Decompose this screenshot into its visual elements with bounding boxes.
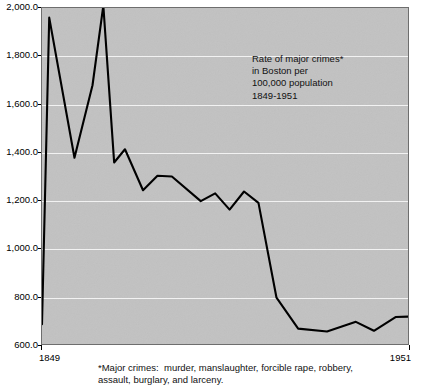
y-axis-tick-mark xyxy=(38,297,41,298)
y-axis-tick-mark xyxy=(38,152,41,153)
series-line xyxy=(42,8,409,345)
y-axis-tick-label: 600.0 xyxy=(0,340,38,350)
y-axis-tick-mark xyxy=(38,200,41,201)
y-axis-tick-label: 800.0 xyxy=(0,292,38,302)
plot-area xyxy=(41,7,409,345)
x-axis-tick-mark xyxy=(409,345,410,350)
y-axis: 600.0800.01,000.01,200.01,400.01,600.01,… xyxy=(0,0,38,388)
y-axis-tick-label: 1,000.0 xyxy=(0,243,38,253)
y-axis-tick-label: 2,000.0 xyxy=(0,2,38,12)
x-axis-tick-label: 1849 xyxy=(39,352,60,363)
y-axis-tick-label: 1,200.0 xyxy=(0,195,38,205)
y-axis-tick-mark xyxy=(38,7,41,8)
y-axis-tick-mark xyxy=(38,55,41,56)
x-axis-tick-mark xyxy=(41,345,42,350)
chart-annotation: Rate of major crimes* in Boston per 100,… xyxy=(252,53,343,102)
y-axis-tick-mark xyxy=(38,345,41,346)
y-axis-tick-label: 1,600.0 xyxy=(0,99,38,109)
y-axis-tick-mark xyxy=(38,248,41,249)
y-axis-tick-label: 1,400.0 xyxy=(0,147,38,157)
y-axis-tick-label: 1,800.0 xyxy=(0,50,38,60)
chart-footnote: *Major crimes: murder, manslaughter, for… xyxy=(98,362,353,385)
x-axis-tick-label: 1951 xyxy=(390,352,411,363)
crime-rate-line-chart: 600.0800.01,000.01,200.01,400.01,600.01,… xyxy=(0,0,426,388)
y-axis-tick-mark xyxy=(38,104,41,105)
